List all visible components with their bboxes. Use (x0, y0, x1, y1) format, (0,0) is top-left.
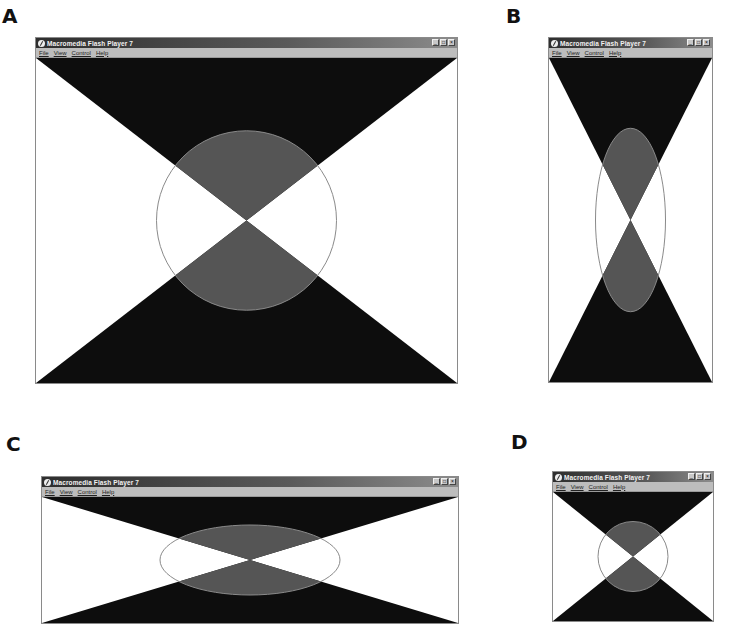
menu-help[interactable]: Help (609, 50, 621, 56)
menu-file[interactable]: File (45, 489, 55, 495)
bowtie-ellipse-graphic (549, 58, 712, 382)
title-bar[interactable]: Macromedia Flash Player 7 _ □ × (36, 38, 457, 48)
menu-file[interactable]: File (556, 484, 566, 490)
maximize-button[interactable]: □ (440, 39, 447, 46)
flash-app-icon (551, 40, 558, 47)
close-button[interactable]: × (448, 39, 455, 46)
menu-help[interactable]: Help (102, 489, 114, 495)
menu-bar: File View Control Help (42, 487, 458, 497)
panel-label-b: B (506, 6, 521, 26)
flash-app-icon (555, 474, 562, 481)
window-title: Macromedia Flash Player 7 (564, 474, 650, 481)
menu-file[interactable]: File (552, 50, 562, 56)
minimize-button[interactable]: _ (687, 39, 694, 46)
menu-control[interactable]: Control (78, 489, 97, 495)
menu-control[interactable]: Control (589, 484, 608, 490)
menu-view[interactable]: View (567, 50, 580, 56)
title-bar[interactable]: Macromedia Flash Player 7 _ □ × (549, 38, 712, 48)
menu-file[interactable]: File (39, 50, 49, 56)
title-bar[interactable]: Macromedia Flash Player 7 _ □ × (42, 477, 458, 487)
panel-label-c: C (6, 434, 21, 454)
menu-view[interactable]: View (571, 484, 584, 490)
menu-bar: File View Control Help (553, 482, 713, 492)
menu-bar: File View Control Help (36, 48, 457, 58)
minimize-button[interactable]: _ (432, 39, 439, 46)
menu-view[interactable]: View (54, 50, 67, 56)
flash-player-window-c: Macromedia Flash Player 7 _ □ × File Vie… (41, 476, 459, 624)
flash-stage (36, 58, 457, 383)
flash-player-window-d: Macromedia Flash Player 7 _ □ × File Vie… (552, 471, 714, 622)
minimize-button[interactable]: _ (688, 473, 695, 480)
menu-view[interactable]: View (60, 489, 73, 495)
flash-player-window-b: Macromedia Flash Player 7 _ □ × File Vie… (548, 37, 713, 383)
bowtie-ellipse-graphic (553, 492, 713, 621)
close-button[interactable]: × (449, 478, 456, 485)
maximize-button[interactable]: □ (696, 473, 703, 480)
title-bar[interactable]: Macromedia Flash Player 7 _ □ × (553, 472, 713, 482)
maximize-button[interactable]: □ (695, 39, 702, 46)
flash-app-icon (44, 479, 51, 486)
flash-app-icon (38, 40, 45, 47)
flash-stage (553, 492, 713, 621)
minimize-button[interactable]: _ (433, 478, 440, 485)
menu-help[interactable]: Help (613, 484, 625, 490)
maximize-button[interactable]: □ (441, 478, 448, 485)
menu-bar: File View Control Help (549, 48, 712, 58)
menu-help[interactable]: Help (96, 50, 108, 56)
menu-control[interactable]: Control (585, 50, 604, 56)
bowtie-ellipse-graphic (36, 58, 457, 383)
bowtie-ellipse-graphic (42, 497, 458, 623)
flash-player-window-a: Macromedia Flash Player 7 _ □ × File Vie… (35, 37, 458, 384)
panel-label-d: D (511, 432, 528, 452)
close-button[interactable]: × (703, 39, 710, 46)
close-button[interactable]: × (704, 473, 711, 480)
window-title: Macromedia Flash Player 7 (47, 40, 133, 47)
panel-label-a: A (2, 6, 17, 26)
menu-control[interactable]: Control (72, 50, 91, 56)
window-title: Macromedia Flash Player 7 (560, 40, 646, 47)
window-title: Macromedia Flash Player 7 (53, 479, 139, 486)
flash-stage (42, 497, 458, 623)
flash-stage (549, 58, 712, 382)
